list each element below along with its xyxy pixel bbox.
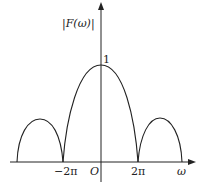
tick-label-2pi: 2π: [131, 165, 145, 178]
x-axis-label: ω: [177, 165, 186, 178]
peak-label: 1: [103, 53, 110, 66]
right-side-lobe-curve: [138, 118, 182, 162]
y-axis-label: |F(ω)|: [62, 17, 95, 31]
left-side-lobe-curve: [17, 119, 63, 162]
origin-label: O: [90, 165, 99, 178]
x-axis-arrow-icon: [188, 159, 196, 165]
y-axis-arrow-icon: [98, 2, 104, 10]
magnitude-spectrum-diagram: |F(ω)| 1 −2π O 2π ω: [0, 0, 205, 188]
tick-label-neg-2pi: −2π: [54, 165, 77, 178]
